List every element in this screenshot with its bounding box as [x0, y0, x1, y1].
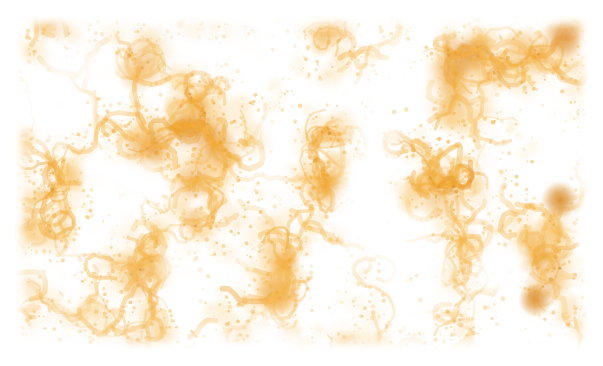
micrograph-image-plate — [13, 14, 591, 352]
micrograph-figure: Photomicrograph of tissue showing a dens… — [0, 0, 603, 366]
figure-caption — [0, 0, 1, 1]
figure-alt-text: Photomicrograph of tissue showing a dens… — [0, 0, 1, 1]
micrograph-canvas — [13, 14, 591, 352]
pattern-label: reticular mesh-like network — [0, 0, 1, 1]
stain-name-label: amber / golden-brown chromogen — [0, 0, 1, 1]
